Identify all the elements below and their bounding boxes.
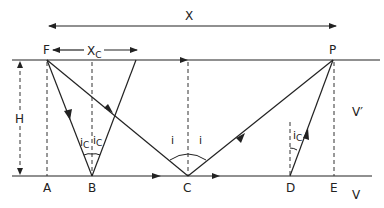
label-ic-b-left: iC bbox=[80, 136, 89, 150]
label-h: H bbox=[15, 112, 24, 126]
ray-f-to-c bbox=[47, 60, 188, 176]
label-d: D bbox=[286, 181, 295, 195]
ray-d-to-p-arrowhead bbox=[303, 128, 309, 140]
ray-f-to-c-arrowhead bbox=[104, 104, 113, 113]
ray-b-to-surface bbox=[92, 60, 136, 176]
label-xc-main: X bbox=[87, 44, 95, 58]
angle-arc-b-right bbox=[92, 154, 100, 155]
label-p: P bbox=[329, 43, 336, 57]
label-xc: XC bbox=[87, 44, 102, 60]
seismic-ray-diagram: X XC F P H iC iC i i iC A B C bbox=[0, 0, 384, 208]
label-b: B bbox=[88, 181, 96, 195]
top-surface-arrowhead bbox=[180, 57, 188, 63]
label-xc-sub: C bbox=[95, 50, 101, 60]
angle-arc-d bbox=[290, 148, 297, 150]
angle-arc-b-left bbox=[84, 154, 92, 155]
label-i-left: i bbox=[171, 134, 174, 147]
ic-d-sub: C bbox=[296, 133, 302, 143]
label-i-right: i bbox=[199, 134, 202, 147]
label-c: C bbox=[183, 181, 191, 195]
ic-b-left-sub: C bbox=[83, 140, 89, 150]
label-v-lower: V bbox=[352, 188, 361, 202]
ic-b-right-sub: C bbox=[96, 138, 102, 148]
interface-arrowhead-2 bbox=[212, 173, 220, 179]
label-x: X bbox=[185, 9, 193, 23]
label-f: F bbox=[43, 43, 50, 57]
label-e: E bbox=[330, 181, 338, 195]
label-a: A bbox=[43, 181, 52, 195]
label-ic-b-right: iC bbox=[93, 134, 102, 148]
label-v-upper: V′ bbox=[352, 105, 363, 119]
ray-f-to-b-arrowhead bbox=[64, 109, 72, 120]
interface-arrowhead-1 bbox=[152, 173, 161, 179]
label-ic-d: iC bbox=[293, 129, 302, 143]
